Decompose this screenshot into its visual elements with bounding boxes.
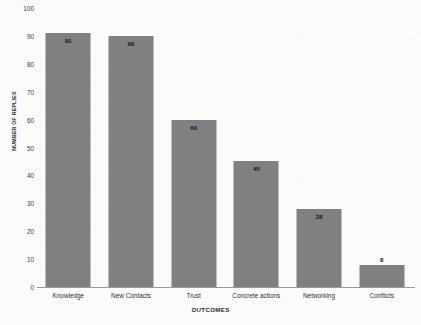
y-axis-tick-labels: 0102030405060708090100 <box>6 0 34 325</box>
bar-value-label: 8 <box>380 256 383 263</box>
x-axis-category-label: New Contacts <box>100 292 163 299</box>
y-axis-tick-label: 0 <box>30 284 34 291</box>
x-axis-baseline <box>37 287 415 288</box>
bar-value-label: 60 <box>190 124 197 131</box>
bar[interactable]: 28 <box>296 209 341 287</box>
bar-group: 60 <box>162 8 225 287</box>
x-axis-category-label: Knowledge <box>37 292 100 299</box>
bar-group: 28 <box>288 8 351 287</box>
bar[interactable]: 91 <box>46 33 91 287</box>
bar-chart-figure: NUMBER OF REPLIES 0102030405060708090100… <box>0 0 421 325</box>
y-axis-tick-label: 30 <box>27 200 34 207</box>
bar[interactable]: 90 <box>108 36 153 287</box>
bar[interactable]: 60 <box>171 120 216 287</box>
x-axis-title: OUTCOMES <box>0 306 421 313</box>
plot-area: 91906045288 <box>37 8 413 287</box>
y-axis-tick-label: 80 <box>27 60 34 67</box>
bar-group: 45 <box>225 8 288 287</box>
x-axis-category-label: Networking <box>288 292 351 299</box>
y-axis-tick-label: 100 <box>23 5 34 12</box>
bar[interactable]: 8 <box>359 265 404 287</box>
bar-value-label: 90 <box>128 40 135 47</box>
x-axis-category-label: Concrete actions <box>225 292 288 299</box>
y-axis-tick-label: 50 <box>27 144 34 151</box>
y-axis-tick-label: 70 <box>27 88 34 95</box>
y-axis-tick-label: 60 <box>27 116 34 123</box>
y-axis-tick-label: 10 <box>27 256 34 263</box>
x-axis-category-label: Trust <box>162 292 225 299</box>
y-axis-tick-label: 90 <box>27 32 34 39</box>
bar-value-label: 28 <box>316 213 323 220</box>
y-axis-tick-label: 40 <box>27 172 34 179</box>
bar[interactable]: 45 <box>234 161 279 287</box>
x-axis-category-label: Conflicts <box>350 292 413 299</box>
bar-group: 8 <box>350 8 413 287</box>
bar-value-label: 45 <box>253 165 260 172</box>
bar-group: 91 <box>37 8 100 287</box>
bar-value-label: 91 <box>65 37 72 44</box>
y-axis-tick-label: 20 <box>27 228 34 235</box>
bar-group: 90 <box>100 8 163 287</box>
